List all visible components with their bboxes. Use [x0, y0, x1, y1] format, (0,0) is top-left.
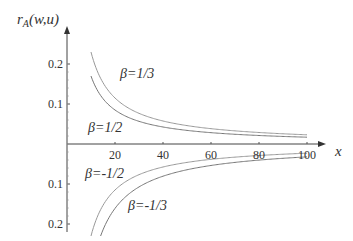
y-tick-label: 0.2 [48, 57, 63, 71]
x-tick-label: 80 [253, 148, 265, 162]
x-tick-label: 40 [157, 148, 169, 162]
x-tick-label: 20 [109, 148, 121, 162]
x-tick-label: 100 [298, 148, 316, 162]
x-axis-label: x [334, 143, 342, 159]
annotation-beta-1-2: β=1/2 [87, 120, 122, 135]
series-line-1neg-2 [91, 76, 307, 137]
annotation-beta-neg-1-3: β=-1/3 [127, 198, 167, 213]
y-tick-label: 0.2 [48, 217, 63, 231]
annotation-beta-neg-1-2: β=-1/2 [84, 166, 124, 181]
x-axis-arrow [318, 141, 326, 147]
series-line-1neg-3 [91, 52, 307, 135]
y-tick-label: 0.1 [48, 97, 63, 111]
chart: 204060801000.20.10.10.2 rA(w,u) x β=1/3 … [0, 0, 353, 241]
annotation-beta-1-3: β=1/3 [119, 66, 154, 81]
series-line-1-3 [101, 157, 307, 236]
y-axis-label: rA(w,u) [17, 11, 59, 29]
y-tick-label: 0.1 [48, 177, 63, 191]
x-tick-label: 60 [205, 148, 217, 162]
y-axis-arrow [64, 26, 70, 34]
